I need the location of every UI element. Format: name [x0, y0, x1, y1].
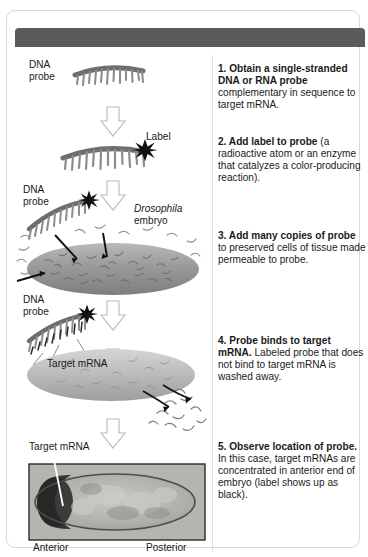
- dna-probe-1-line1: DNA: [29, 59, 50, 70]
- step-2: 2. Add label to probe (a radioactive ato…: [218, 136, 366, 184]
- flow-arrow-2: [101, 181, 125, 210]
- label-dna-probe-1: DNA probe: [29, 59, 55, 82]
- step-1-rest: complementary in sequence to target mRNA…: [218, 87, 355, 110]
- label-label-star: Label: [146, 131, 171, 143]
- step-5-rest: In this case, target mRNAs are concentra…: [218, 453, 355, 500]
- label-target-mrna-bottom: Target mRNA: [29, 441, 90, 453]
- step-1-bold: Obtain a single-stranded DNA or RNA prob…: [218, 63, 348, 86]
- steps-column: 1. Obtain a single-stranded DNA or RNA p…: [218, 63, 368, 557]
- dna-probe-2-line2: probe: [23, 196, 49, 207]
- flow-arrow-5: [101, 419, 125, 448]
- dna-probe-3-line2: probe: [23, 306, 49, 317]
- drosophila-embryo-stage3: [17, 225, 200, 295]
- dna-probe-2-line1: DNA: [23, 184, 44, 195]
- step-3: 3. Add many copies of probe to preserved…: [218, 230, 366, 266]
- step-5-bold: Observe location of probe.: [229, 441, 357, 452]
- process-header-bar: [15, 28, 365, 47]
- flow-arrow-3: [101, 301, 125, 330]
- step-3-rest: to preserved cells of tissue made permea…: [218, 242, 366, 265]
- step-2-number: 2.: [218, 136, 226, 147]
- illustration-column: DNA probe Label DNA probe Drosophila emb…: [15, 51, 211, 556]
- step-4: 4. Probe binds to target mRNA. Labeled p…: [218, 335, 366, 383]
- label-dna-probe-2: DNA probe: [23, 184, 49, 207]
- label-anterior: Anterior: [33, 542, 68, 554]
- step-4-number: 4.: [218, 335, 226, 346]
- dna-probe-3-line1: DNA: [23, 294, 44, 305]
- column-divider: [212, 55, 213, 552]
- label-target-mrna-mid: Target mRNA: [47, 358, 108, 370]
- drosophila-genus: Drosophila: [134, 203, 182, 214]
- step-1: 1. Obtain a single-stranded DNA or RNA p…: [218, 63, 366, 111]
- flow-arrow-1: [101, 107, 125, 136]
- step-3-number: 3.: [218, 230, 226, 241]
- step-3-bold: Add many copies of probe: [229, 230, 356, 241]
- label-posterior: Posterior: [146, 542, 186, 554]
- labeled-probe-stage2-icon: [63, 139, 158, 170]
- label-drosophila-embryo: Drosophila embryo: [134, 203, 182, 226]
- step-1-number: 1.: [218, 63, 226, 74]
- dna-probe-stage1-icon: [75, 68, 143, 85]
- dna-probe-1-line2: probe: [29, 71, 55, 82]
- label-star-icon: [78, 191, 100, 210]
- embryo-word: embryo: [134, 215, 168, 226]
- page-title: PROCESS: VISUALIZING mRNAs BY IN SITU HY…: [15, 14, 318, 25]
- process-card: PROCESS: VISUALIZING mRNAs BY IN SITU HY…: [6, 10, 360, 548]
- embryo-micrograph: [29, 455, 205, 540]
- step-5: 5. Observe location of probe. In this ca…: [218, 441, 366, 501]
- step-5-number: 5.: [218, 441, 226, 452]
- step-2-bold: Add label to probe: [229, 136, 318, 147]
- label-dna-probe-3: DNA probe: [23, 294, 49, 317]
